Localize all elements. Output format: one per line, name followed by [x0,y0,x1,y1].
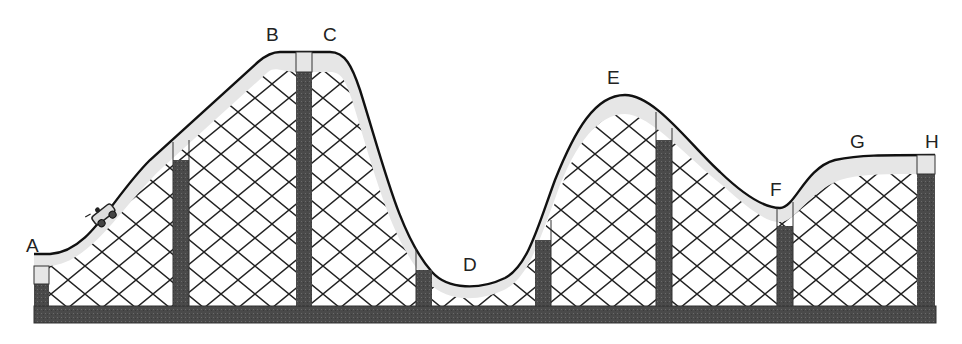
support-1 [173,160,189,306]
point-label-g: G [850,132,865,151]
point-label-a: A [26,236,39,255]
point-label-c: C [323,25,337,44]
roller-coaster-diagram: A B C D E F G H [0,0,962,344]
support-2 [416,270,432,306]
support-bc [296,72,312,306]
point-label-e: E [607,68,620,87]
support-h [917,174,935,306]
point-label-b: B [266,25,279,44]
support-f [777,226,793,306]
track-svg [0,0,962,344]
ground-base [34,306,936,323]
support-a [34,284,49,306]
lattice-structure [34,40,936,310]
point-label-d: D [463,255,477,274]
point-label-f: F [770,180,782,199]
support-4 [656,140,672,306]
point-label-h: H [925,132,939,151]
support-3 [535,240,551,306]
